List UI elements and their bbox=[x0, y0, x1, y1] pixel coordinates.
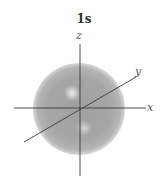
z-axis-label: z bbox=[76, 30, 82, 41]
x-axis-label: x bbox=[147, 102, 153, 113]
highlight-upper bbox=[63, 84, 81, 102]
y-axis-label: y bbox=[135, 66, 141, 77]
orbital-sphere bbox=[33, 63, 125, 155]
orbital-graphic bbox=[0, 0, 168, 184]
highlight-lower bbox=[75, 119, 93, 137]
orbital-diagram: 1s z y x bbox=[0, 0, 168, 184]
